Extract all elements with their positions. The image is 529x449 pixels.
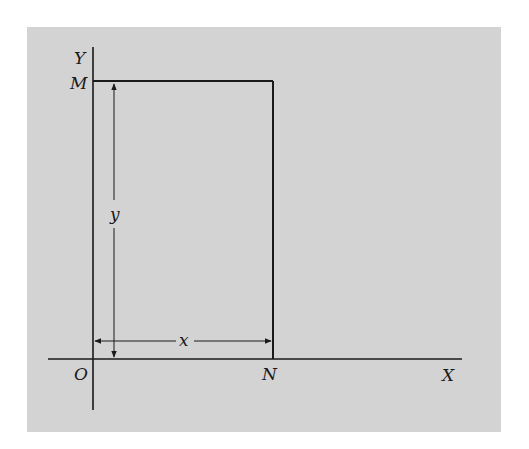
point-n-label: N	[261, 364, 278, 384]
x-axis-label: X	[440, 365, 455, 385]
point-m-label: M	[69, 73, 88, 93]
height-label: y	[109, 204, 120, 224]
y-axis-label: Y	[74, 48, 87, 68]
origin-label: O	[74, 364, 88, 384]
width-label: x	[179, 330, 189, 350]
coordinate-diagram: Y M y x O N X	[0, 0, 529, 449]
